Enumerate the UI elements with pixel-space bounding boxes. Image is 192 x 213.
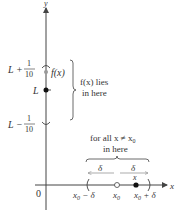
x-range-text-2: in here bbox=[103, 144, 128, 154]
fx-range-brace bbox=[70, 60, 76, 120]
lower-bound-den: 10 bbox=[25, 125, 33, 134]
fx-range-text-1: f(x) lies bbox=[80, 77, 109, 87]
x-point-label: x bbox=[132, 173, 137, 182]
lower-bound-num: 1 bbox=[27, 114, 31, 123]
x0-plus-delta-label: x0 + δ bbox=[133, 190, 157, 201]
upper-bound-prefix: L + bbox=[7, 64, 23, 75]
x-axis-label: x bbox=[169, 181, 174, 191]
l-point bbox=[44, 88, 49, 93]
x0-label: x0 bbox=[112, 190, 120, 201]
x0-minus-delta-label: x0 − δ bbox=[72, 190, 96, 201]
origin-label: 0 bbox=[36, 188, 41, 199]
x-filled-point bbox=[133, 182, 138, 187]
epsilon-delta-diagram: L + 1 10 f(x) L L − 1 10 y f(x) lies in … bbox=[0, 0, 192, 213]
lower-bound-prefix: L − bbox=[7, 119, 23, 130]
fx-range-text-2: in here bbox=[82, 88, 107, 98]
delta-left-label: δ bbox=[98, 163, 103, 173]
x-range-brace bbox=[86, 156, 149, 162]
y-axis-label: y bbox=[43, 0, 48, 8]
upper-bound-den: 10 bbox=[25, 70, 33, 79]
x-range-text-1: for all x ≠ x0 bbox=[90, 133, 135, 144]
delta-right-label: δ bbox=[131, 163, 136, 173]
x0-open-point bbox=[115, 183, 120, 188]
fx-point bbox=[44, 70, 48, 74]
fx-label: f(x) bbox=[51, 67, 66, 79]
upper-bound-num: 1 bbox=[27, 59, 31, 68]
l-label: L bbox=[32, 85, 39, 96]
